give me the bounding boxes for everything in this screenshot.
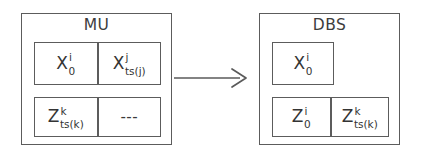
token-base: X [294, 53, 306, 73]
token-superscript: k [60, 106, 67, 117]
mu-cell-ztsk: Zkts(k) [34, 97, 98, 137]
token-scripts: i0 [304, 106, 311, 130]
token-base: X [113, 53, 125, 73]
dbs-group-box: DBS Xi0 Zi0 Zkts(k) [259, 13, 400, 145]
token-subscript: 0 [68, 66, 75, 77]
token-scripts: i0 [306, 52, 313, 76]
token-base: Z [342, 106, 354, 126]
token-subscript: ts(k) [60, 119, 84, 130]
arrow-right-icon [174, 64, 252, 92]
token-scripts: kts(k) [354, 106, 378, 130]
token-superscript: i [68, 52, 71, 63]
mu-cell-empty: --- [98, 97, 162, 137]
dbs-cell-ztsk: Zkts(k) [331, 97, 390, 137]
token-superscript: j [125, 52, 128, 63]
math-token: Xjts(j) [113, 52, 146, 76]
token-base: X [56, 53, 68, 73]
token-scripts: kts(k) [60, 106, 84, 130]
math-token: Xi0 [56, 52, 75, 76]
math-token: Zkts(k) [342, 105, 378, 129]
mu-cell-xtsj: Xjts(j) [98, 42, 162, 85]
dbs-cell-x0i: Xi0 [272, 42, 334, 85]
token-superscript: k [354, 106, 361, 117]
token-subscript: 0 [306, 66, 313, 77]
token-base: Z [48, 106, 60, 126]
token-subscript: 0 [304, 119, 311, 130]
dbs-row-1: Xi0 [272, 42, 334, 85]
token-superscript: i [306, 52, 309, 63]
math-token: Xi0 [294, 52, 313, 76]
mu-row-2: Zkts(k) --- [34, 97, 161, 137]
math-token: Zi0 [292, 105, 311, 129]
mu-group-title: MU [22, 18, 171, 34]
dbs-cell-z0i: Zi0 [272, 97, 331, 137]
token-subscript: ts(j) [125, 66, 146, 77]
token-subscript: ts(k) [354, 119, 378, 130]
mu-group-box: MU Xi0 Xjts(j) Zkts(k) --- [21, 13, 172, 145]
mu-row-1: Xi0 Xjts(j) [34, 42, 161, 85]
token-scripts: i0 [68, 52, 75, 76]
token-superscript: i [304, 106, 307, 117]
math-token: Zkts(k) [48, 105, 84, 129]
dbs-row-2: Zi0 Zkts(k) [272, 97, 389, 137]
token-base: Z [292, 106, 304, 126]
mu-cell-x0i: Xi0 [34, 42, 98, 85]
token-scripts: jts(j) [125, 52, 146, 76]
empty-placeholder-dashes: --- [120, 110, 138, 125]
dbs-group-title: DBS [260, 18, 399, 34]
